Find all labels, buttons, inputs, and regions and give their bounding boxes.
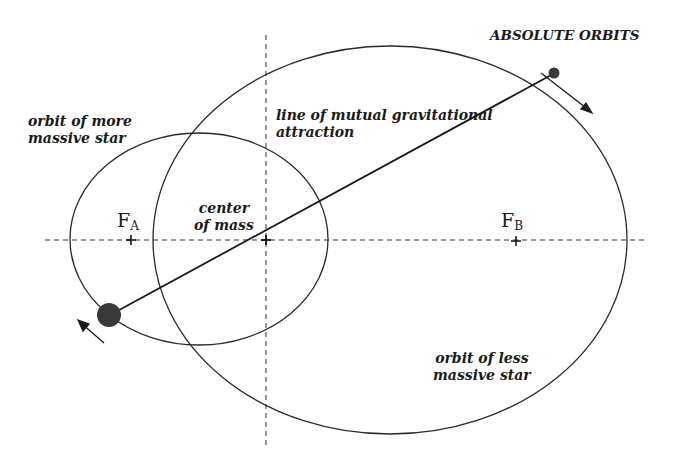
label-center-of-mass: center of mass (194, 200, 254, 234)
less-massive-star (549, 68, 560, 79)
focus-b-label: FB (501, 209, 523, 231)
label-orbit-more-massive: orbit of more massive star (28, 113, 132, 147)
label-orbit-less-massive: orbit of less massive star (433, 350, 531, 384)
label-line: massive star (433, 367, 531, 384)
label-line: center (194, 200, 254, 217)
label-line: line of mutual gravitational (276, 107, 493, 124)
label-line: massive star (28, 130, 132, 147)
center-of-mass-cross-icon (261, 235, 271, 245)
focus-letter: F (501, 209, 514, 231)
label-line: orbit of more (28, 113, 132, 130)
focus-subscript: B (514, 219, 523, 233)
label-line: orbit of less (433, 350, 531, 367)
absolute-orbits-diagram (0, 0, 685, 461)
motion-arrow-more-massive-icon (78, 320, 104, 343)
label-line: attraction (276, 124, 493, 141)
focus-subscript: A (130, 219, 139, 233)
focus-a-label: FA (117, 209, 139, 231)
label-line: of mass (194, 217, 254, 234)
diagram-title: ABSOLUTE ORBITS (490, 27, 639, 43)
more-massive-star (97, 303, 121, 327)
focus-a-cross-icon (126, 235, 136, 245)
focus-b-cross-icon (511, 236, 521, 246)
motion-arrow-less-massive-icon (541, 73, 592, 113)
focus-letter: F (117, 209, 130, 231)
label-line-of-attraction: line of mutual gravitational attraction (276, 107, 493, 141)
